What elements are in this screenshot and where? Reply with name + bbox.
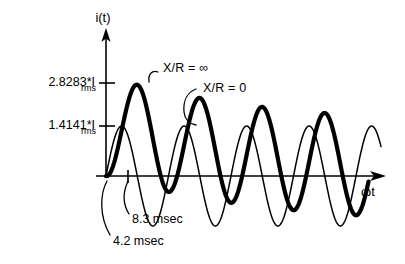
annotation-8-3-msec: 8.3 msec <box>132 212 183 226</box>
leader-asymmetric <box>149 71 158 82</box>
y-tick-label-lower-sub: rms <box>81 126 96 136</box>
y-axis-ticks <box>99 83 115 126</box>
x-axis-label: ωt <box>361 184 375 199</box>
y-axis-label: i(t) <box>95 10 110 25</box>
annotation-x-over-r-infinity: X/R = ∞ <box>163 61 208 75</box>
y-tick-label-lower: 1.4141*I rms <box>48 118 96 136</box>
annotation-x-over-r-zero: X/R = 0 <box>203 81 246 95</box>
annotation-4-2-msec: 4.2 msec <box>113 234 164 248</box>
leader-8-3-msec <box>124 181 129 214</box>
axes-group <box>96 28 386 181</box>
waveform-figure: i(t) ωt 2.8283*I rms 1.4141*I rms X/R = … <box>0 0 405 264</box>
y-tick-label-upper-sub: rms <box>81 83 96 93</box>
y-tick-label-upper: 2.8283*I rms <box>48 75 96 93</box>
leader-4-2-msec <box>102 181 110 235</box>
